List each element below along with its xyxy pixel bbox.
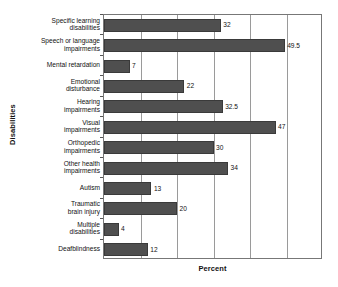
category-label: Emotionaldisturbance bbox=[14, 78, 100, 93]
bar bbox=[104, 80, 184, 93]
category-label-line: Visual bbox=[14, 119, 100, 127]
category-label-line: impairments bbox=[14, 167, 100, 175]
bar bbox=[104, 223, 119, 236]
category-label: Multipledisabilities bbox=[14, 221, 100, 236]
x-axis-title: Percent bbox=[103, 264, 322, 273]
y-axis-tick bbox=[100, 218, 103, 219]
category-label: Autism bbox=[14, 184, 100, 192]
category-label: Other healthimpairments bbox=[14, 160, 100, 175]
category-label-line: Traumatic bbox=[14, 200, 100, 208]
y-axis-tick bbox=[100, 14, 103, 15]
category-label-line: brain injury bbox=[14, 208, 100, 216]
category-label-line: disabilities bbox=[14, 24, 100, 32]
bar-value-label: 34 bbox=[231, 164, 238, 172]
bar bbox=[104, 162, 228, 175]
y-axis-tick bbox=[100, 137, 103, 138]
bar-value-label: 4 bbox=[121, 225, 125, 233]
bar bbox=[104, 100, 223, 113]
category-label: Speech or languageimpairments bbox=[14, 37, 100, 52]
category-label-line: Mental retardation bbox=[14, 61, 100, 69]
y-axis-tick bbox=[100, 198, 103, 199]
bar bbox=[104, 243, 148, 256]
category-label-line: impairments bbox=[14, 126, 100, 134]
y-axis-tick bbox=[100, 116, 103, 117]
bar-value-label: 13 bbox=[154, 185, 161, 193]
plot-area: 3249.572232.54730341320412 bbox=[103, 14, 322, 259]
bar-value-label: 12 bbox=[150, 246, 157, 254]
category-label-line: Other health bbox=[14, 160, 100, 168]
bar bbox=[104, 60, 130, 73]
category-label-line: Hearing bbox=[14, 98, 100, 106]
category-label: Orthopedicimpairments bbox=[14, 139, 100, 154]
category-label-line: Autism bbox=[14, 184, 100, 192]
bar bbox=[104, 202, 177, 215]
bar bbox=[104, 141, 214, 154]
bar-value-label: 47 bbox=[278, 123, 285, 131]
category-label: Hearingimpairments bbox=[14, 98, 100, 113]
category-label-line: disturbance bbox=[14, 85, 100, 93]
category-label: Mental retardation bbox=[14, 61, 100, 69]
bar bbox=[104, 121, 276, 134]
category-label-line: impairments bbox=[14, 106, 100, 114]
bar-value-label: 30 bbox=[216, 144, 223, 152]
bar bbox=[104, 39, 285, 52]
category-label-line: Orthopedic bbox=[14, 139, 100, 147]
bar-value-label: 32 bbox=[223, 21, 230, 29]
category-label-line: Speech or language bbox=[14, 37, 100, 45]
bar-value-label: 22 bbox=[187, 82, 194, 90]
bar-value-label: 7 bbox=[132, 62, 136, 70]
category-label: Traumaticbrain injury bbox=[14, 200, 100, 215]
bar-value-label: 20 bbox=[180, 205, 187, 213]
y-axis-tick bbox=[100, 75, 103, 76]
category-label-line: impairments bbox=[14, 147, 100, 155]
category-label-line: disabilities bbox=[14, 228, 100, 236]
bar-value-label: 32.5 bbox=[225, 103, 238, 111]
bar bbox=[104, 182, 151, 195]
bar-value-label: 49.5 bbox=[287, 42, 300, 50]
category-label-column: Specific learningdisabilitiesSpeech or l… bbox=[14, 14, 100, 259]
y-axis-tick bbox=[100, 177, 103, 178]
y-axis-tick bbox=[100, 157, 103, 158]
y-axis-tick bbox=[100, 34, 103, 35]
category-label-line: Multiple bbox=[14, 221, 100, 229]
y-axis-tick bbox=[100, 239, 103, 240]
category-label-line: Emotional bbox=[14, 78, 100, 86]
bar bbox=[104, 19, 221, 32]
y-axis-tick bbox=[100, 55, 103, 56]
category-label: Deafblindness bbox=[14, 245, 100, 253]
category-label-line: Deafblindness bbox=[14, 245, 100, 253]
gridline bbox=[287, 15, 288, 258]
y-axis-tick bbox=[100, 96, 103, 97]
category-label-line: impairments bbox=[14, 45, 100, 53]
category-label: Specific learningdisabilities bbox=[14, 17, 100, 32]
category-label: Visualimpairments bbox=[14, 119, 100, 134]
category-label-line: Specific learning bbox=[14, 17, 100, 25]
bar-chart: Disabilities Specific learningdisabiliti… bbox=[0, 0, 338, 287]
